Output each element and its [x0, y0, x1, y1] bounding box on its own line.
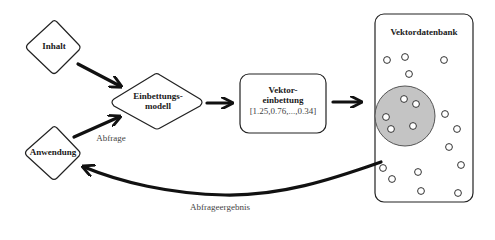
embedding-model-label-line2: modell: [118, 101, 198, 111]
query-label-text: Abfrage: [96, 133, 125, 143]
arrow-db-to-application: [84, 162, 381, 195]
arrow-content-to-model: [78, 64, 120, 86]
vector-embedding-value: [1.25,0.76,...,0.34]: [240, 106, 326, 116]
result-edge-label: Abfrageergebnis: [180, 202, 260, 212]
embedding-model-node: Einbettungs- modell: [118, 91, 198, 112]
content-node: Inhalt: [28, 41, 80, 51]
application-node: Anwendung: [24, 147, 82, 157]
vector-embedding-label-line1: Vektor-: [240, 85, 326, 95]
embedding-model-label-line1: Einbettungs-: [118, 91, 198, 101]
vector-db-title: Vektordatenbank: [375, 27, 473, 37]
vector-db-title-text: Vektordatenbank: [390, 27, 457, 37]
result-label-text: Abfrageergebnis: [190, 202, 250, 212]
query-edge-label: Abfrage: [86, 133, 136, 143]
application-label: Anwendung: [30, 147, 77, 157]
vector-embedding-node: Vektor- einbettung [1.25,0.76,...,0.34]: [240, 85, 326, 116]
vector-embedding-label-line2: einbettung: [240, 95, 326, 105]
content-label: Inhalt: [42, 41, 66, 51]
